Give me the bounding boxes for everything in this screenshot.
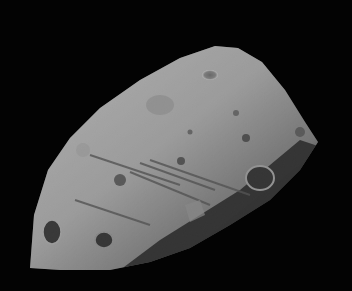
space-photo	[0, 0, 352, 291]
moon-body	[0, 0, 352, 291]
moon-illustration	[0, 0, 352, 291]
